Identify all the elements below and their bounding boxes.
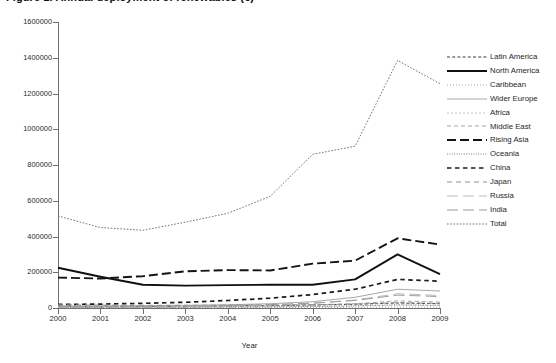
x-tick-mark: [270, 309, 271, 314]
y-tick-label: 1200000: [4, 90, 52, 97]
legend-item[interactable]: Middle East: [447, 119, 555, 133]
x-tick-mark: [440, 309, 441, 314]
legend-item[interactable]: Africa: [447, 106, 555, 120]
y-tick-label: 600000: [4, 197, 52, 204]
legend-label: China: [490, 164, 510, 172]
y-tick-label: 800000: [4, 161, 52, 168]
legend-key-swatch: [447, 205, 487, 215]
legend-key-swatch: [447, 135, 487, 145]
series-line: [58, 238, 440, 278]
x-tick-mark: [143, 309, 144, 314]
x-tick-label: 2000: [38, 314, 78, 323]
y-tick-label: 1600000: [4, 18, 52, 25]
x-tick-mark: [398, 309, 399, 314]
x-tick-label: 2007: [335, 314, 375, 323]
legend-item[interactable]: China: [447, 161, 555, 175]
y-tick-label: 200000: [4, 268, 52, 275]
x-tick-mark: [100, 309, 101, 314]
legend-item[interactable]: Wider Europe: [447, 92, 555, 106]
legend-item[interactable]: Caribbean: [447, 78, 555, 92]
legend-label: Wider Europe: [490, 95, 538, 103]
series-line: [58, 254, 440, 285]
legend-item[interactable]: Latin America: [447, 50, 555, 64]
legend-item[interactable]: India: [447, 203, 555, 217]
x-tick-label: 2008: [378, 314, 418, 323]
x-tick-label: 2005: [250, 314, 290, 323]
legend-label: Caribbean: [490, 81, 526, 89]
y-tick-label: 0: [4, 304, 52, 311]
x-tick-label: 2001: [80, 314, 120, 323]
x-tick-label: 2004: [208, 314, 248, 323]
legend-label: Oceania: [490, 150, 519, 158]
legend-key-swatch: [447, 191, 487, 201]
legend-item[interactable]: Oceania: [447, 147, 555, 161]
legend-key-swatch: [447, 108, 487, 118]
legend-label: Total: [490, 220, 506, 228]
series-lines: [58, 22, 440, 309]
x-tick-label: 2009: [420, 314, 460, 323]
x-tick-label: 2006: [293, 314, 333, 323]
legend-item[interactable]: Japan: [447, 175, 555, 189]
legend-key-swatch: [447, 219, 487, 229]
y-tick-label: 400000: [4, 233, 52, 240]
legend-label: Japan: [490, 178, 511, 186]
legend-key-swatch: [447, 52, 487, 62]
legend-item[interactable]: Total: [447, 217, 555, 231]
legend-key-swatch: [447, 121, 487, 131]
x-axis-title: Year: [58, 341, 441, 350]
x-tick-mark: [58, 309, 59, 314]
legend-label: Rising Asia: [490, 136, 529, 144]
x-tick-label: 2003: [165, 314, 205, 323]
legend-label: Russia: [490, 192, 514, 200]
x-tick-label: 2002: [123, 314, 163, 323]
legend-label: Africa: [490, 109, 510, 117]
x-tick-mark: [313, 309, 314, 314]
y-tick-label: 1000000: [4, 125, 52, 132]
legend-label: Latin America: [490, 53, 537, 61]
y-tick-label: 1400000: [4, 54, 52, 61]
line-chart: Figure 1. Annual deployment of renewable…: [0, 0, 556, 363]
legend-label: Middle East: [490, 123, 531, 131]
legend-key-swatch: [447, 66, 487, 76]
plot-area: [58, 22, 440, 308]
legend-key-swatch: [447, 94, 487, 104]
legend-key-swatch: [447, 177, 487, 187]
x-tick-mark: [355, 309, 356, 314]
legend-key-swatch: [447, 149, 487, 159]
legend-item[interactable]: North America: [447, 64, 555, 78]
chart-legend: Latin AmericaNorth AmericaCaribbeanWider…: [447, 50, 555, 231]
x-tick-mark: [185, 309, 186, 314]
legend-key-swatch: [447, 80, 487, 90]
legend-label: India: [490, 206, 507, 214]
chart-title: Figure 1. Annual deployment of renewable…: [6, 0, 446, 3]
series-line: [58, 60, 440, 230]
x-tick-mark: [228, 309, 229, 314]
legend-key-swatch: [447, 163, 487, 173]
legend-item[interactable]: Russia: [447, 189, 555, 203]
legend-item[interactable]: Rising Asia: [447, 133, 555, 147]
legend-label: North America: [490, 67, 539, 75]
